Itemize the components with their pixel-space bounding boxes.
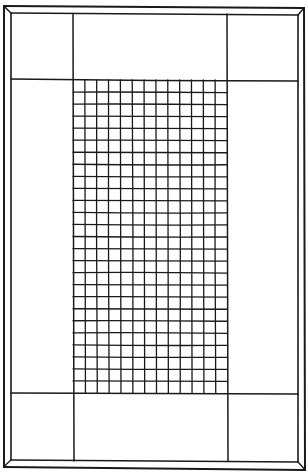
outer-frame — [4, 6, 305, 470]
grid-row-line — [73, 200, 227, 201]
grid-row-line — [73, 237, 227, 238]
inner-frame-top — [11, 13, 298, 15]
grid-row-line — [73, 297, 227, 298]
grid-row-line — [73, 212, 227, 213]
outer-frame-right — [304, 8, 305, 470]
divider-horizontal-bottom — [11, 393, 298, 394]
grid-row-line — [73, 369, 227, 370]
grid-row-line — [73, 92, 227, 93]
grid-row-line — [73, 321, 227, 322]
grid-row-line — [73, 249, 227, 250]
grid-row-line — [73, 345, 227, 346]
grid-row-line — [73, 104, 227, 105]
grid-row-line — [73, 140, 227, 141]
outer-frame-bottom — [4, 467, 305, 470]
corner-br — [298, 462, 305, 470]
grid-row-line — [73, 116, 227, 117]
grid-row-line — [73, 309, 227, 310]
central-grid — [73, 80, 227, 393]
grid-row-line — [73, 272, 227, 273]
outer-frame-top — [4, 6, 304, 8]
grid-row-line — [73, 188, 227, 189]
grid-row-line — [73, 381, 227, 382]
line-drawing — [0, 0, 307, 474]
inner-frame-bottom — [11, 460, 298, 462]
grid-row-line — [73, 152, 227, 153]
grid-row-line — [73, 164, 227, 165]
corner-tl — [4, 6, 11, 13]
grid-row-line — [73, 128, 227, 129]
divider-horizontal-top — [11, 79, 298, 81]
grid-row-line — [73, 357, 227, 358]
grid-row-line — [73, 261, 227, 262]
corner-bl — [4, 460, 11, 467]
grid-row-line — [73, 333, 227, 334]
grid-row-line — [73, 285, 227, 286]
grid-row-line — [73, 176, 227, 177]
grid-row-line — [73, 224, 227, 225]
